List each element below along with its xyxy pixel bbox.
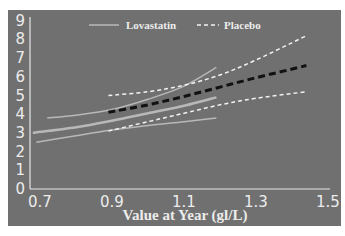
y-tick-label: 7 xyxy=(15,49,25,67)
x-tick-label: 0.7 xyxy=(28,193,52,211)
y-tick-label: 0 xyxy=(15,180,25,198)
x-axis-title: Value at Year (gl/L) xyxy=(123,207,248,224)
y-tick-label: 6 xyxy=(15,68,25,86)
x-tick-label: 0.9 xyxy=(100,193,124,211)
legend: Lovastatin Placebo xyxy=(89,19,261,31)
y-tick-label: 8 xyxy=(15,30,25,48)
x-tick-label: 1.3 xyxy=(244,193,268,211)
series-line-lovastatin-upper-ci xyxy=(47,67,216,117)
legend-label-placebo: Placebo xyxy=(224,19,261,31)
y-axis-ticks: 0123456789 xyxy=(15,12,25,198)
series-line-placebo-upper-ci xyxy=(108,36,306,96)
y-tick-label: 1 xyxy=(15,161,25,179)
y-tick-label: 2 xyxy=(15,143,25,161)
x-tick-label: 1.5 xyxy=(316,193,340,211)
line-chart: 0123456789 0.70.91.11.31.5 Lovastatin Pl… xyxy=(0,0,345,236)
y-tick-label: 9 xyxy=(15,12,25,30)
series-lines xyxy=(33,36,307,143)
legend-label-lovastatin: Lovastatin xyxy=(126,19,176,31)
series-line-placebo-lower-ci xyxy=(108,92,306,131)
y-tick-label: 3 xyxy=(15,124,25,142)
y-tick-label: 5 xyxy=(15,87,25,105)
y-tick-label: 4 xyxy=(15,105,25,123)
